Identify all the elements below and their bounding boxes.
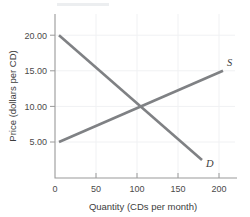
- y-tick-label: 10.00: [24, 102, 47, 112]
- supply-demand-chart: 20.00 15.00 10.00 5.00 0 50 100 150 200 …: [0, 0, 250, 217]
- x-axis-ticks: [96, 173, 219, 178]
- chart-canvas: 20.00 15.00 10.00 5.00 0 50 100 150 200 …: [0, 0, 250, 217]
- y-tick-label: 15.00: [24, 66, 47, 76]
- x-tick-label: 100: [129, 184, 144, 194]
- supply-curve-label: S: [227, 57, 233, 68]
- y-axis-tick-labels: 20.00 15.00 10.00 5.00: [24, 31, 47, 148]
- x-tick-label: 200: [211, 184, 226, 194]
- axis-lines: [55, 14, 237, 178]
- x-axis-title: Quantity (CDs per month): [89, 201, 197, 212]
- x-tick-label: 0: [52, 184, 57, 194]
- demand-curve: [59, 35, 202, 160]
- x-axis-tick-labels: 0 50 100 150 200: [52, 184, 226, 194]
- demand-curve-label: D: [205, 158, 214, 169]
- x-tick-label: 150: [170, 184, 185, 194]
- gridlines-horizontal: [55, 35, 235, 142]
- x-tick-label: 50: [91, 184, 101, 194]
- gridlines-vertical: [96, 14, 219, 178]
- y-axis-title: Price (dollars per CD): [7, 50, 18, 141]
- y-tick-label: 20.00: [24, 31, 47, 41]
- scan-artifact: [57, 3, 109, 6]
- y-tick-label: 5.00: [29, 137, 47, 147]
- y-axis-ticks: [50, 35, 55, 142]
